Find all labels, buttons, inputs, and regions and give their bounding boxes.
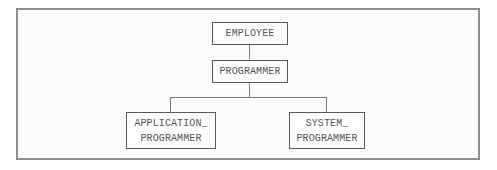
connector-to-system-programmer [326,97,327,112]
node-employee-label: EMPLOYEE [226,26,275,41]
connector-employee-programmer [249,44,250,60]
node-system-programmer-label-line2: PROGRAMMER [296,131,357,146]
node-system-programmer-label-line1: SYSTEM_ [306,116,349,131]
connector-programmer-down [249,82,250,97]
node-application-programmer: APPLICATION_ PROGRAMMER [126,112,216,149]
node-application-programmer-label-line1: APPLICATION_ [134,116,207,131]
connector-horizontal-bar [170,97,327,98]
node-system-programmer: SYSTEM_ PROGRAMMER [289,112,365,149]
node-employee: EMPLOYEE [212,22,288,45]
node-programmer-label: PROGRAMMER [219,64,280,79]
connector-to-application-programmer [170,97,171,112]
node-application-programmer-label-line2: PROGRAMMER [140,131,201,146]
node-programmer: PROGRAMMER [212,60,288,83]
